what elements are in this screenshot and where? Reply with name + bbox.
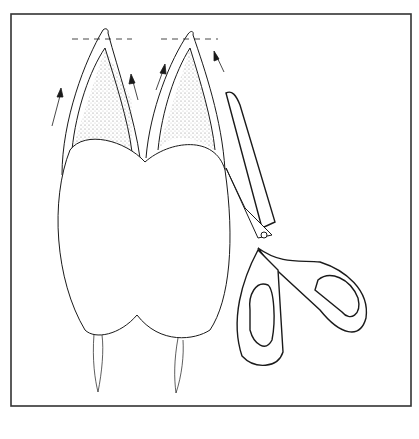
diagram-canvas [0,0,419,439]
body [58,139,230,338]
root-left [93,334,102,392]
root-right [175,338,184,393]
pivot-screw [261,232,267,238]
scissors [226,92,366,365]
